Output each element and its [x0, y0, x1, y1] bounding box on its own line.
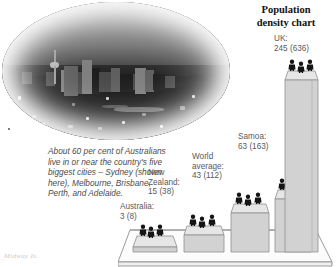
city-light: [98, 127, 102, 130]
map-fragment-label: Midway Is.: [4, 252, 38, 260]
city-light: [72, 103, 75, 106]
building: [8, 68, 22, 84]
bar-label-samoa: Samoa: 63 (163): [238, 132, 284, 151]
building: [34, 76, 46, 86]
chart-title: Population density chart: [238, 4, 334, 29]
bar-label-new-zealand: New Zealand: 15 (38): [148, 168, 192, 197]
chart-title-line-2: density chart: [257, 17, 316, 28]
city-light: [106, 97, 109, 100]
city-light: [68, 125, 73, 128]
bar-australia: [133, 225, 177, 252]
building: [99, 72, 111, 92]
chart-title-line-1: Population: [261, 4, 310, 15]
bar-label-uk: UK: 245 (636): [274, 34, 322, 53]
city-light: [42, 123, 45, 126]
bar-uk: [285, 60, 318, 252]
page-root: About 60 per cent of Australians live in…: [0, 0, 336, 267]
city-light: [18, 96, 21, 100]
city-light: [86, 117, 89, 120]
city-light: [32, 115, 36, 118]
speck-mark: [8, 128, 10, 130]
bar-label-world-average: World average: 43 (112): [192, 152, 242, 181]
chart-graphic: [118, 30, 336, 267]
building: [82, 60, 92, 94]
bar-new-zealand: [184, 215, 224, 252]
building-tall-lit: [64, 66, 78, 96]
bar-world-average: [231, 193, 269, 252]
population-density-chart: Australia: 3 (8) New Zealand: 15 (38) Wo…: [118, 30, 336, 267]
bar-label-australia: Australia: 3 (8): [120, 202, 166, 221]
building: [22, 72, 32, 84]
sydney-tower-shaft: [54, 66, 56, 84]
